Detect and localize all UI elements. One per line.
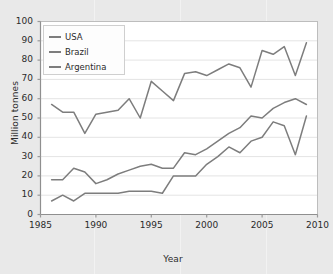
legend-line-swatch-icon	[49, 51, 61, 53]
y-tick-label: 30	[9, 151, 33, 161]
legend-item-usa[interactable]: USA	[49, 30, 83, 44]
y-tick-label: 80	[9, 54, 33, 64]
x-tick-label: 2005	[242, 220, 282, 230]
line-chart: 0102030405060708090100 19851990199520002…	[0, 0, 333, 274]
y-tick-label: 90	[9, 35, 33, 45]
y-tick-label: 100	[9, 16, 33, 26]
y-axis-title: Million tonnes	[10, 77, 20, 149]
legend-item-brazil[interactable]: Brazil	[49, 45, 89, 59]
y-tick-label: 20	[9, 170, 33, 180]
x-tick-label: 2010	[298, 220, 333, 230]
x-tick-label: 1990	[76, 220, 116, 230]
x-tick-label: 1985	[21, 220, 61, 230]
legend-label: USA	[65, 33, 83, 42]
legend-line-swatch-icon	[49, 36, 61, 38]
chart-legend: USA Brazil Argentina	[43, 25, 125, 75]
x-tick-label: 1995	[131, 220, 171, 230]
legend-label: Argentina	[65, 63, 106, 72]
legend-line-swatch-icon	[49, 66, 61, 68]
y-tick-label: 0	[9, 209, 33, 219]
chart-page: 0102030405060708090100 19851990199520002…	[0, 0, 333, 274]
legend-item-argentina[interactable]: Argentina	[49, 60, 106, 74]
legend-label: Brazil	[65, 48, 89, 57]
x-axis-title: Year	[28, 254, 318, 264]
y-tick-label: 10	[9, 189, 33, 199]
x-tick-label: 2000	[187, 220, 227, 230]
